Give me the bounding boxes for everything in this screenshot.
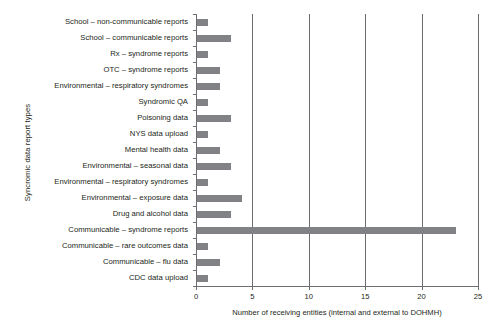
x-axis-tick xyxy=(252,286,253,290)
bar-slot xyxy=(197,238,478,254)
y-axis-tick-label: Environmental – exposure data xyxy=(18,190,193,206)
bar xyxy=(197,163,231,170)
y-axis-tick-label: NYS data upload xyxy=(18,126,193,142)
bar-slot xyxy=(197,206,478,222)
bar xyxy=(197,19,208,26)
x-axis-tick xyxy=(478,286,479,290)
bar-slot xyxy=(197,78,478,94)
bar xyxy=(197,275,208,282)
bar xyxy=(197,211,231,218)
x-axis-tick-label: 5 xyxy=(250,292,254,301)
bar-slot xyxy=(197,142,478,158)
bar xyxy=(197,99,208,106)
bar xyxy=(197,147,220,154)
bar xyxy=(197,83,220,90)
y-axis-tick-label: School – non-communicable reports xyxy=(18,14,193,30)
x-axis-tick-label: 25 xyxy=(474,292,482,301)
plot-area: 0510152025 xyxy=(196,14,478,286)
y-axis-tick xyxy=(193,126,196,127)
bar-slot xyxy=(197,94,478,110)
bar xyxy=(197,67,220,74)
y-axis-tick xyxy=(193,142,196,143)
y-axis-tick-label: Environmental – respiratory syndromes xyxy=(18,174,193,190)
bar xyxy=(197,227,456,234)
y-axis-tick xyxy=(193,254,196,255)
bar-slot xyxy=(197,14,478,30)
y-axis-tick xyxy=(193,238,196,239)
y-axis-tick xyxy=(193,78,196,79)
bar-slot xyxy=(197,270,478,286)
gridline xyxy=(478,14,479,286)
x-axis-tick xyxy=(309,286,310,290)
y-axis-tick xyxy=(193,14,196,15)
bar xyxy=(197,115,231,122)
bar-slot xyxy=(197,126,478,142)
bar-slot xyxy=(197,110,478,126)
y-axis-tick xyxy=(193,270,196,271)
y-axis-tick xyxy=(193,110,196,111)
y-axis-tick xyxy=(193,174,196,175)
bar xyxy=(197,179,208,186)
y-axis-tick-label: School – communicable reports xyxy=(18,30,193,46)
x-axis-tick-label: 10 xyxy=(305,292,313,301)
bar-slot xyxy=(197,222,478,238)
bar xyxy=(197,195,242,202)
x-axis-tick xyxy=(196,286,197,290)
bar xyxy=(197,35,231,42)
x-axis-tick xyxy=(422,286,423,290)
y-axis-tick xyxy=(193,222,196,223)
x-axis-tick-label: 0 xyxy=(194,292,198,301)
y-axis-tick-label: Environmental – seasonal data xyxy=(18,158,193,174)
bar-slot xyxy=(197,174,478,190)
y-axis-tick xyxy=(193,30,196,31)
y-axis-tick xyxy=(193,62,196,63)
y-axis-tick-label: Communicable – flu data xyxy=(18,254,193,270)
bar xyxy=(197,259,220,266)
bar-slot xyxy=(197,30,478,46)
bar-slot xyxy=(197,190,478,206)
y-axis-tick-label: Environmental – respiratory syndromes xyxy=(18,78,193,94)
y-axis-tick-label: Poisoning data xyxy=(18,110,193,126)
x-axis-tick xyxy=(365,286,366,290)
bar-slot xyxy=(197,158,478,174)
y-axis-tick-label: CDC data upload xyxy=(18,270,193,286)
x-axis-tick-label: 20 xyxy=(417,292,425,301)
bar xyxy=(197,131,208,138)
bar xyxy=(197,243,208,250)
y-axis-tick xyxy=(193,46,196,47)
bar xyxy=(197,51,208,58)
y-axis-tick xyxy=(193,206,196,207)
y-axis-tick-label: Drug and alcohol data xyxy=(18,206,193,222)
y-axis-tick-labels: School – non-communicable reportsSchool … xyxy=(18,14,193,286)
x-axis-title: Number of receiving entities (internal a… xyxy=(196,308,478,317)
y-axis-tick-label: OTC – syndrome reports xyxy=(18,62,193,78)
y-axis-tick xyxy=(193,158,196,159)
bar-series xyxy=(197,14,478,286)
y-axis-tick xyxy=(193,94,196,95)
y-axis-tick-label: Mental health data xyxy=(18,142,193,158)
bar-slot xyxy=(197,62,478,78)
x-axis-line xyxy=(196,286,479,287)
y-axis-tick-label: Communicable – rare outcomes data xyxy=(18,238,193,254)
y-axis-tick-label: Syndromic QA xyxy=(18,94,193,110)
y-axis-tick-label: Communicable – syndrome reports xyxy=(18,222,193,238)
x-axis-tick-label: 15 xyxy=(361,292,369,301)
bar-slot xyxy=(197,46,478,62)
bar-slot xyxy=(197,254,478,270)
bar-chart: Syncromic data report types School – non… xyxy=(0,0,497,336)
y-axis-tick xyxy=(193,190,196,191)
y-axis-tick-label: Rx – syndrome reports xyxy=(18,46,193,62)
